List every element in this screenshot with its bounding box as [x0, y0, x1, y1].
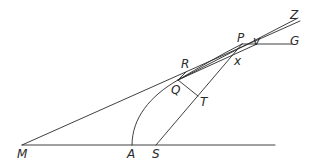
- label-T: T: [200, 95, 209, 109]
- label-x: x: [233, 54, 242, 68]
- perpendicular-QT: [178, 80, 198, 96]
- line-Qxv: [178, 44, 257, 80]
- label-S: S: [152, 147, 160, 161]
- label-Z: Z: [289, 8, 299, 22]
- label-M: M: [17, 147, 28, 161]
- label-R: R: [181, 57, 189, 71]
- label-v: v: [253, 34, 261, 48]
- label-G: G: [290, 34, 299, 48]
- geometry-diagram: M A S Q T R P x v G Z: [0, 0, 316, 167]
- label-Q: Q: [171, 83, 180, 97]
- focal-line-SP: [156, 44, 242, 145]
- label-A: A: [126, 147, 135, 161]
- label-P: P: [237, 31, 245, 45]
